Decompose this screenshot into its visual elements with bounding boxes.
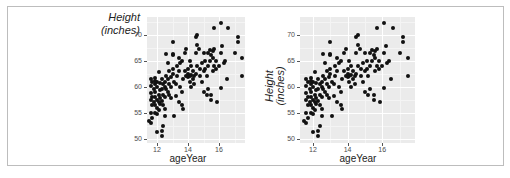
data-point (311, 130, 315, 134)
data-point (340, 77, 344, 81)
data-point (330, 114, 334, 118)
data-point (382, 51, 386, 55)
data-point (401, 40, 405, 44)
data-point (332, 82, 336, 86)
data-point (332, 94, 336, 98)
data-point (189, 64, 193, 68)
minor-gridline-y (147, 22, 245, 23)
data-point (183, 51, 187, 55)
data-point (236, 35, 240, 39)
y-tick (144, 87, 147, 88)
major-gridline-x (219, 17, 220, 143)
data-point (368, 87, 372, 91)
data-point (174, 94, 178, 98)
data-point (219, 51, 223, 55)
data-point (212, 47, 216, 51)
data-point (150, 116, 154, 120)
data-point (160, 134, 164, 138)
data-point (373, 69, 377, 73)
y-tick-label: 70 (124, 31, 142, 38)
data-point (164, 52, 168, 56)
y-tick (297, 61, 300, 62)
y-tick-label: 50 (277, 135, 295, 142)
x-tick-label: 14 (338, 146, 358, 153)
data-point (328, 40, 332, 44)
x-tick-label: 12 (303, 146, 323, 153)
data-point (194, 72, 198, 76)
data-point (194, 51, 198, 55)
data-point (180, 90, 184, 94)
y-tick (297, 139, 300, 140)
data-point (197, 47, 201, 51)
data-point (169, 85, 173, 89)
data-point (155, 112, 159, 116)
data-point (163, 107, 167, 111)
data-point (361, 80, 365, 84)
y-tick-label: 55 (124, 109, 142, 116)
data-point (380, 64, 384, 68)
data-point (149, 121, 153, 125)
data-point (171, 40, 175, 44)
data-point (344, 47, 348, 51)
major-gridline-y (147, 113, 245, 114)
data-point (209, 98, 213, 102)
data-point (160, 87, 164, 91)
data-point (200, 80, 204, 84)
data-point (358, 47, 362, 51)
data-point (189, 85, 193, 89)
data-point (327, 85, 331, 89)
data-point (155, 130, 159, 134)
data-point (349, 64, 353, 68)
data-point (163, 114, 167, 118)
data-point (323, 61, 327, 65)
data-point (205, 74, 209, 78)
data-point (337, 85, 341, 89)
data-point (172, 114, 176, 118)
data-point (353, 82, 357, 86)
data-point (320, 114, 324, 118)
data-point (354, 72, 358, 76)
data-point (177, 69, 181, 73)
x-tick-label: 16 (209, 146, 229, 153)
data-point (359, 74, 363, 78)
x-tick-label: 12 (147, 146, 167, 153)
data-point (212, 26, 216, 30)
data-point (240, 74, 244, 78)
data-point (233, 51, 237, 55)
y-tick (297, 113, 300, 114)
data-point (225, 77, 229, 81)
y-tick (144, 35, 147, 36)
data-point (304, 121, 308, 125)
data-point (340, 107, 344, 111)
data-point (342, 51, 346, 55)
data-point (309, 79, 313, 83)
data-point (327, 96, 331, 100)
data-point (157, 70, 161, 74)
data-point (366, 93, 370, 97)
data-point (171, 67, 175, 71)
data-point (339, 59, 343, 63)
data-point (384, 44, 388, 48)
data-point (333, 74, 337, 78)
y-tick-label: 65 (124, 57, 142, 64)
data-point (389, 77, 393, 81)
major-gridline-y (300, 113, 415, 114)
left-plot-area (147, 17, 245, 143)
data-point (178, 85, 182, 89)
data-point (226, 26, 230, 30)
data-point (401, 35, 405, 39)
data-point (365, 59, 369, 63)
data-point (175, 74, 179, 78)
data-point (313, 70, 317, 74)
data-point (219, 21, 223, 25)
y-tick (297, 87, 300, 88)
y-tick (144, 61, 147, 62)
data-point (382, 21, 386, 25)
major-gridline-y (300, 139, 415, 140)
data-point (354, 51, 358, 55)
data-point (203, 59, 207, 63)
data-point (368, 64, 372, 68)
data-point (180, 59, 184, 63)
data-point (387, 59, 391, 63)
y-tick-label: 70 (277, 31, 295, 38)
